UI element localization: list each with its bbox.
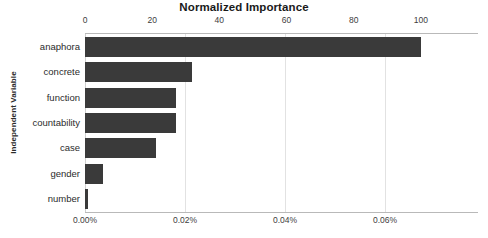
bottom-axis-line [85, 212, 478, 213]
bottom-tick-label: 0.02% [173, 215, 197, 225]
top-tick-label: 60 [282, 15, 291, 25]
top-tick-label: 40 [215, 15, 224, 25]
bar[interactable] [85, 37, 421, 57]
chart-title: Normalized Importance [0, 1, 488, 13]
category-label: concrete [44, 66, 80, 78]
bar-row[interactable] [85, 37, 478, 57]
top-tick-label: 0 [83, 15, 88, 25]
category-label: number [48, 193, 80, 205]
bar-row[interactable] [85, 88, 478, 108]
category-label: anaphora [40, 41, 80, 53]
bar-row[interactable] [85, 189, 478, 209]
category-label: case [60, 142, 80, 154]
bottom-tick-label: 0.06% [373, 215, 397, 225]
category-label: countability [32, 117, 80, 129]
top-tick-label: 100 [414, 15, 428, 25]
bar-row[interactable] [85, 62, 478, 82]
bar-row[interactable] [85, 138, 478, 158]
bottom-tick-label: 0.00% [73, 215, 97, 225]
bar-row[interactable] [85, 113, 478, 133]
bar[interactable] [85, 88, 176, 108]
bar-row[interactable] [85, 164, 478, 184]
category-label: function [47, 92, 80, 104]
bottom-tick-label: 0.04% [273, 215, 297, 225]
top-tick-label: 20 [147, 15, 156, 25]
top-tick-label: 80 [349, 15, 358, 25]
bar[interactable] [85, 113, 176, 133]
bar[interactable] [85, 164, 103, 184]
category-label: gender [50, 168, 80, 180]
plot-area [85, 34, 478, 212]
bar[interactable] [85, 138, 156, 158]
bar-chart: Normalized Importance 020406080100 anaph… [0, 0, 488, 238]
bar[interactable] [85, 62, 192, 82]
bar[interactable] [85, 189, 88, 209]
bottom-axis-ticks: 0.00%0.02%0.04%0.06% [0, 215, 488, 229]
top-axis-ticks: 020406080100 [0, 15, 488, 27]
y-axis-title: Independent Variable [9, 53, 18, 173]
